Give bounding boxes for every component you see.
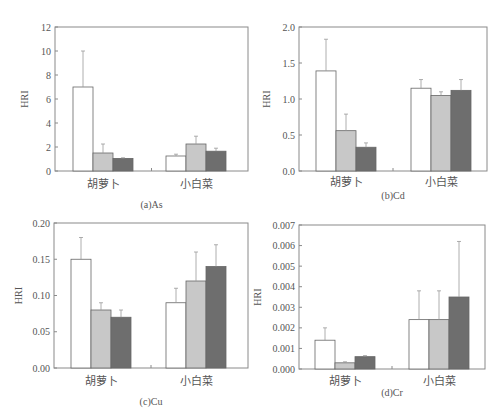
bar: [71, 259, 91, 368]
chart-panel-cu: 0.000.050.100.150.20HRI胡萝卜小白菜(c)Cu: [13, 218, 248, 409]
bar: [206, 267, 226, 369]
y-tick-label: 0.15: [33, 254, 51, 265]
y-tick-label: 0: [46, 166, 51, 177]
figure-canvas: 024681012HRI胡萝卜小白菜(a)As 0.00.51.01.52.0H…: [0, 0, 502, 420]
y-tick-label: 6: [46, 94, 51, 105]
bar: [316, 71, 336, 171]
bar: [206, 151, 226, 171]
bar: [166, 156, 186, 171]
y-axis-label: HRI: [252, 288, 263, 305]
y-tick-label: 0.00: [33, 363, 51, 374]
y-tick-label: 0.001: [273, 343, 296, 354]
bar: [315, 340, 335, 369]
x-category-label: 小白菜: [425, 175, 458, 188]
y-tick-label: 0.5: [283, 130, 296, 141]
y-tick-label: 0.002: [273, 322, 296, 333]
y-tick-label: 0.000: [273, 364, 296, 375]
bar: [93, 153, 113, 171]
x-category-label: 胡萝卜: [87, 177, 120, 190]
chart-panel-as: 024681012HRI胡萝卜小白菜(a)As: [19, 22, 248, 212]
y-tick-label: 0.006: [273, 240, 296, 251]
y-tick-label: 2.0: [283, 22, 296, 33]
bar: [335, 363, 355, 369]
x-category-label: 胡萝卜: [85, 374, 118, 387]
x-category-label: 胡萝卜: [330, 175, 363, 188]
bar: [91, 310, 111, 368]
y-tick-label: 8: [46, 70, 51, 81]
y-axis-label: HRI: [13, 287, 24, 304]
bar: [186, 144, 206, 171]
bar: [431, 95, 451, 171]
subplot-title: (a)As: [140, 199, 162, 211]
bar: [73, 87, 93, 171]
y-tick-label: 0.0: [283, 166, 296, 177]
bar: [356, 147, 376, 171]
y-tick-label: 1.5: [283, 58, 296, 69]
y-axis-label: HRI: [19, 90, 30, 107]
chart-panel-cr: 0.0000.0010.0020.0030.0040.0050.0060.007…: [252, 220, 485, 400]
y-tick-label: 0.004: [273, 281, 296, 292]
y-tick-label: 0.007: [273, 220, 296, 231]
x-category-label: 胡萝卜: [329, 374, 362, 387]
bar: [449, 297, 469, 369]
bar: [411, 88, 431, 171]
bar: [409, 320, 429, 369]
y-tick-label: 2: [46, 142, 51, 153]
y-tick-label: 10: [41, 46, 51, 57]
bar: [166, 303, 186, 368]
y-tick-label: 0.005: [273, 261, 296, 272]
x-category-label: 小白菜: [180, 374, 213, 387]
x-category-label: 小白菜: [423, 374, 456, 387]
bar: [336, 131, 356, 171]
subplot-title: (b)Cd: [381, 190, 404, 202]
bar: [113, 158, 133, 171]
y-tick-label: 12: [41, 22, 51, 33]
y-tick-label: 0.003: [273, 302, 296, 313]
bar: [355, 357, 375, 369]
y-tick-label: 0.10: [33, 290, 51, 301]
y-tick-label: 4: [46, 118, 51, 129]
y-tick-label: 1.0: [283, 94, 296, 105]
y-tick-label: 0.20: [33, 218, 51, 229]
bar: [429, 320, 449, 369]
y-axis-label: HRI: [261, 90, 272, 107]
subplot-title: (d)Cr: [381, 387, 403, 399]
bar: [186, 281, 206, 368]
y-tick-label: 0.05: [33, 326, 51, 337]
subplot-title: (c)Cu: [140, 396, 163, 408]
bar: [451, 90, 471, 171]
x-category-label: 小白菜: [180, 177, 213, 190]
chart-panel-cd: 0.00.51.01.52.0HRI胡萝卜小白菜(b)Cd: [261, 22, 487, 203]
bar: [111, 317, 131, 368]
